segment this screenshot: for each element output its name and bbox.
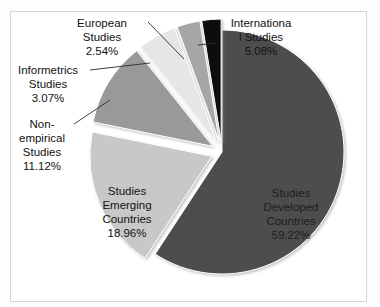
slice-label-studies-developed-countries: Studies Developed Countries 59.22% [248,186,334,243]
slice-label-informetrics-studies: Informetrics Studies 3.07% [2,63,94,105]
slice-label-european-studies: European Studies 2.54% [56,16,148,58]
slice-label-studies-emerging-countries: Studies Emerging Countries 18.96% [84,184,170,241]
slice-label-non-empirical-studies: Non- empirical Studies 11.12% [2,117,82,174]
pie-chart-figure: European Studies 2.54% Informetrics Stud… [0,0,380,307]
slice-label-international-studies: Internationa l Studies 5.08% [218,16,304,58]
